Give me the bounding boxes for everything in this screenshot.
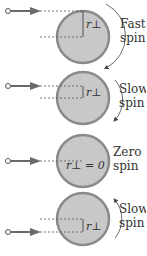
spin-label: spin — [120, 31, 146, 45]
panel-fast-spin: r⊥ Fast spin — [6, 4, 146, 68]
projectile-arrow-icon — [6, 7, 42, 15]
spin-label: Zero — [113, 145, 141, 159]
radius-label: r⊥ — [86, 86, 102, 99]
panel-slow-spin-reverse: r⊥ Slow spin — [6, 193, 147, 245]
radius-label: r⊥ — [86, 18, 102, 31]
spin-label: Slow — [119, 82, 146, 96]
spin-label: spin — [119, 216, 145, 230]
spin-label: spin — [113, 159, 139, 173]
spin-label: Fast — [120, 17, 146, 31]
panel-slow-spin: r⊥ Slow spin — [6, 72, 147, 124]
radius-label: r⊥ = 0 — [66, 159, 105, 172]
radius-label: r⊥ — [86, 220, 102, 233]
projectile-arrow-icon — [6, 157, 42, 165]
projectile-arrow-icon — [6, 228, 42, 236]
spin-diagram: r⊥ Fast spin r⊥ Slow spin r⊥ = 0 Zero sp… — [0, 0, 146, 256]
spin-label: Slow — [119, 202, 146, 216]
projectile-arrow-icon — [6, 82, 42, 90]
panel-zero-spin: r⊥ = 0 Zero spin — [6, 135, 142, 187]
spin-label: spin — [119, 96, 145, 110]
